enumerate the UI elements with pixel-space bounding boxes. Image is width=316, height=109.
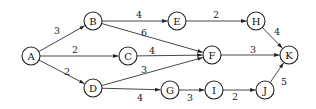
- node-label: J: [262, 85, 267, 96]
- node-c: C: [119, 47, 137, 65]
- edge-weight-label: 4: [274, 26, 280, 37]
- edge-weight-label: 3: [250, 44, 256, 55]
- arrow-line: [137, 55, 203, 56]
- node-label: H: [252, 16, 261, 27]
- edge-weight-label: 6: [141, 27, 147, 38]
- edge-weight-label: 4: [137, 92, 143, 103]
- node-b: B: [84, 12, 102, 30]
- arrow-line: [39, 60, 85, 84]
- edge-c-f: [137, 55, 203, 56]
- node-label: B: [89, 16, 96, 27]
- node-f: F: [203, 46, 221, 64]
- node-label: A: [26, 51, 35, 62]
- node-label: E: [173, 16, 180, 27]
- edges-layer: [39, 21, 284, 90]
- arrow-line: [102, 58, 203, 86]
- edge-weight-label: 2: [72, 44, 78, 55]
- graph-diagram: 32246434233245 ABCDEFGHIJK: [0, 0, 316, 109]
- edge-a-d: [39, 60, 85, 84]
- node-g: G: [161, 81, 179, 99]
- edge-weight-label: 2: [64, 66, 70, 77]
- node-label: K: [285, 50, 293, 61]
- node-i: I: [205, 81, 223, 99]
- node-e: E: [168, 12, 186, 30]
- node-h: H: [247, 12, 265, 30]
- node-k: K: [280, 46, 298, 64]
- node-j: J: [256, 81, 274, 99]
- edge-weight-label: 2: [232, 91, 238, 102]
- edge-d-f: [102, 58, 203, 86]
- edge-weight-label: 4: [149, 45, 155, 56]
- edge-weight-label: 3: [141, 64, 147, 75]
- arrow-line: [102, 88, 161, 90]
- edge-weight-label: 4: [136, 9, 142, 20]
- node-d: D: [84, 79, 102, 97]
- node-a: A: [22, 47, 40, 65]
- edge-d-g: [102, 88, 161, 90]
- edge-weight-label: 3: [187, 92, 193, 103]
- node-label: G: [166, 85, 174, 96]
- node-label: I: [212, 85, 216, 96]
- edge-weight-label: 3: [54, 25, 60, 36]
- node-label: F: [209, 50, 216, 61]
- node-label: D: [89, 83, 97, 94]
- edge-weight-label: 2: [213, 9, 219, 20]
- node-label: C: [124, 51, 132, 62]
- edge-weight-label: 5: [281, 76, 287, 87]
